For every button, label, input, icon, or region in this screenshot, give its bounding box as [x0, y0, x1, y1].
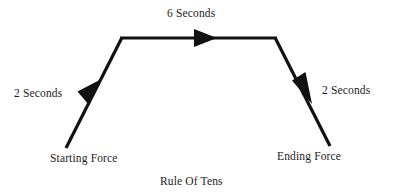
starting-force-label: Starting Force: [50, 152, 118, 165]
ramp-up-duration-label: 2 Seconds: [14, 87, 62, 100]
ending-force-label: Ending Force: [277, 150, 341, 163]
hold-arrow-icon: [194, 29, 217, 47]
ramp-up-arrow-icon: [78, 79, 102, 105]
diagram-caption: Rule Of Tens: [160, 175, 223, 188]
ramp-down-duration-label: 2 Seconds: [322, 84, 370, 97]
hold-duration-label: 6 Seconds: [167, 7, 215, 20]
rule-of-tens-diagram: 6 Seconds 2 Seconds 2 Seconds Starting F…: [0, 0, 394, 194]
